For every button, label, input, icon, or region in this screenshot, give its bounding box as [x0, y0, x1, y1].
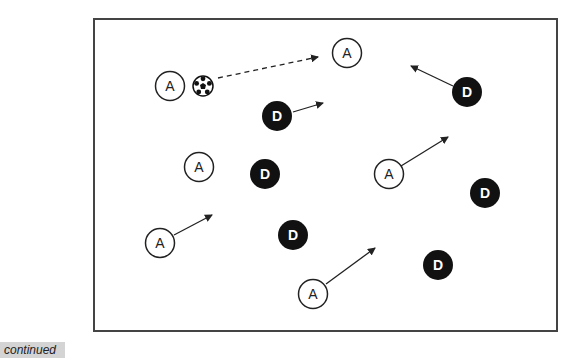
- defender-token: D: [423, 250, 453, 280]
- soccer-ball-icon: [193, 76, 213, 96]
- field-boundary: [94, 19, 557, 331]
- defender-token: D: [262, 101, 292, 131]
- defender-token: D: [250, 159, 280, 189]
- defender-label: D: [272, 108, 282, 124]
- defender-token: D: [470, 178, 500, 208]
- attacker-label: A: [155, 235, 165, 251]
- attacker-label: A: [194, 159, 204, 175]
- run-arrow: [174, 215, 212, 235]
- attacker-token: A: [146, 229, 175, 258]
- attack-defense-diagram: AAAAAADDDDDD: [0, 0, 579, 358]
- defender-label: D: [288, 227, 298, 243]
- continued-caption: continued: [0, 342, 65, 358]
- movement-arrows: [174, 57, 453, 284]
- defender-label: D: [260, 166, 270, 182]
- attacker-label: A: [384, 166, 394, 182]
- attacker-token: A: [299, 280, 328, 309]
- defender-token: D: [452, 77, 482, 107]
- defender-token: D: [278, 220, 308, 250]
- pass-arrow: [218, 57, 318, 78]
- attacker-label: A: [308, 286, 318, 302]
- attacker-token: A: [185, 153, 214, 182]
- attacker-token: A: [375, 160, 404, 189]
- run-arrow: [326, 248, 375, 284]
- attacker-label: A: [165, 78, 175, 94]
- run-arrow: [293, 103, 323, 112]
- attacker-label: A: [342, 45, 352, 61]
- attacker-token: A: [333, 39, 362, 68]
- defender-label: D: [480, 185, 490, 201]
- defender-label: D: [462, 84, 472, 100]
- run-arrow: [401, 137, 448, 166]
- attacker-token: A: [156, 72, 185, 101]
- defender-label: D: [433, 257, 443, 273]
- run-arrow: [411, 66, 453, 86]
